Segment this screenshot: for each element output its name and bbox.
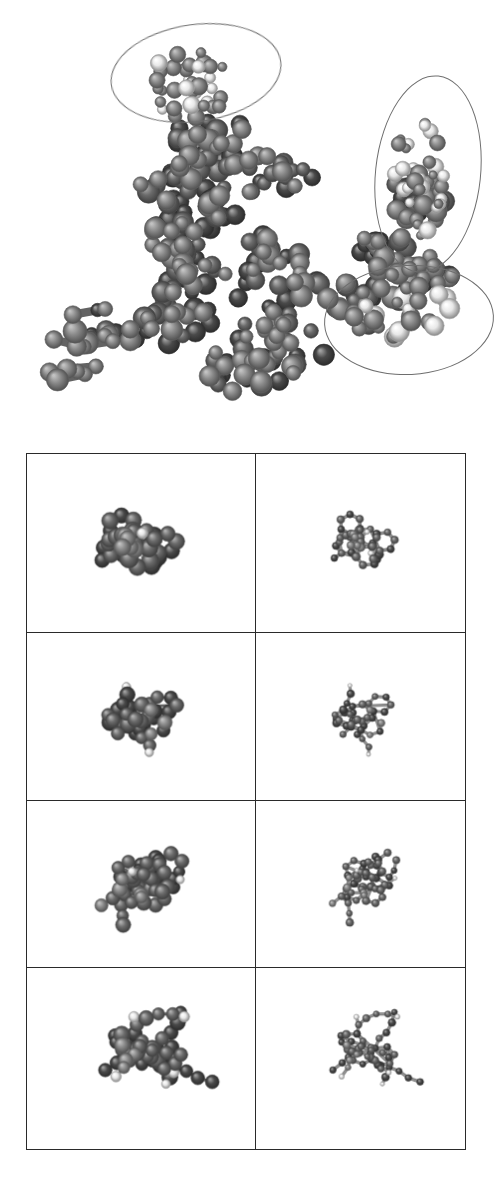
molecule-canvas-r4c2 <box>256 968 465 1149</box>
molecule-canvas-r3c2 <box>256 801 465 967</box>
molecule-canvas-r2c2 <box>256 633 465 800</box>
grid-cell-r3c2 <box>256 801 465 968</box>
figure-root <box>0 0 499 1194</box>
molecule-canvas-r4c1 <box>27 968 255 1149</box>
molecule-canvas-r2c1 <box>27 633 255 800</box>
molecule-canvas-r3c1 <box>27 801 255 967</box>
grid-cell-r2c2 <box>256 633 465 801</box>
grid-cell-r3c1 <box>27 801 256 968</box>
molecule-canvas-r1c1 <box>27 454 255 632</box>
grid-cell-r1c2 <box>256 454 465 633</box>
molecule-comparison-grid <box>26 453 466 1150</box>
molecule-canvas-r1c2 <box>256 454 465 632</box>
space-filling-overview-canvas <box>0 0 499 440</box>
top-overview-panel <box>0 0 499 440</box>
grid-cell-r2c1 <box>27 633 256 801</box>
grid-cell-r4c2 <box>256 968 465 1149</box>
grid-cell-r4c1 <box>27 968 256 1149</box>
grid-cell-r1c1 <box>27 454 256 633</box>
